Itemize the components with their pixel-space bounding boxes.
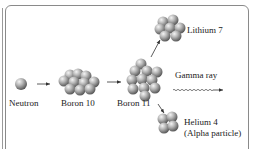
boron11-nucleus-icon [127, 59, 163, 102]
helium4-nucleus-icon [158, 112, 179, 134]
lithium7-label: Lithium 7 [187, 25, 223, 35]
arrow-boron11-helium4 [158, 104, 164, 113]
boron10-nucleus-icon [59, 69, 100, 96]
boron10-label: Boron 10 [61, 98, 95, 108]
gamma-ray-label: Gamma ray [175, 70, 217, 80]
arrow-boron11-lithium7 [151, 40, 160, 57]
gamma-ray-wave-icon [173, 89, 213, 91]
neutron-label: Neutron [9, 98, 39, 108]
helium4-label: Helium 4 [184, 117, 218, 127]
lithium7-nucleus-icon [155, 15, 186, 42]
neutron-sphere-icon [15, 78, 27, 90]
helium4-sublabel: (Alpha particle) [184, 128, 241, 138]
boron11-label: Boron 11 [117, 98, 150, 108]
